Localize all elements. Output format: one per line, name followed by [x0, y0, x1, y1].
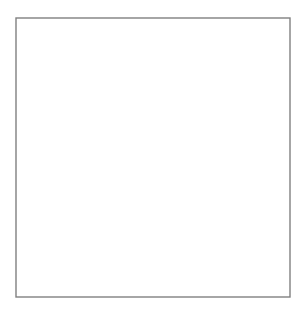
- plot-frame-outline: [16, 18, 290, 297]
- figure-root: [0, 0, 306, 316]
- magnetosphere-field-line-chart: [0, 0, 306, 316]
